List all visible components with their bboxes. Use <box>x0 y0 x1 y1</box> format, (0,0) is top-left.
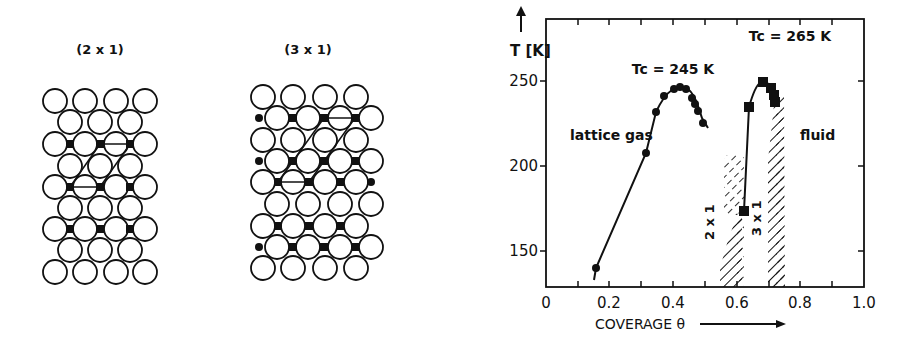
shaded-region-2x1 <box>720 155 744 287</box>
tc-245-label: Tc = 245 K <box>632 61 716 77</box>
x-axis-label-group: COVERAGE θ <box>595 316 786 332</box>
x-tick-label: 0.4 <box>661 294 685 312</box>
y-axis-label-group: T [K] <box>510 6 551 60</box>
phase-diagram: 0 0.2 0.4 0.6 0.8 1.0 150 200 250 T [K] … <box>509 6 876 332</box>
structure-2x1-panel: (2 x 1) <box>43 42 157 284</box>
structure-3x1-label: (3 x 1) <box>284 42 331 57</box>
tc-265-label: Tc = 265 K <box>749 28 833 44</box>
x-tick-label: 0.6 <box>725 294 749 312</box>
y-tick-label: 200 <box>509 157 538 175</box>
lattice-gas-label: lattice gas <box>570 127 653 143</box>
arrow-up-icon <box>516 6 526 16</box>
fluid-label: fluid <box>800 127 835 143</box>
x-tick-label: 0 <box>541 294 551 312</box>
shaded-region-3x1 <box>768 96 785 287</box>
x-ticks <box>578 19 832 287</box>
y-axis-label: T [K] <box>510 42 551 60</box>
plot-frame <box>546 19 864 287</box>
arrow-right-icon <box>776 320 786 328</box>
atom-lattice-3x1 <box>251 85 383 280</box>
series-2x1-curve <box>592 83 708 280</box>
x-tick-label: 0.8 <box>788 294 812 312</box>
x-tick-label: 0.2 <box>597 294 621 312</box>
y-tick-labels: 150 200 250 <box>509 72 538 260</box>
structure-2x1-label: (2 x 1) <box>76 42 123 57</box>
x-tick-label: 1.0 <box>852 294 876 312</box>
figure: (2 x 1) <box>0 0 916 343</box>
y-tick-label: 150 <box>509 242 538 260</box>
phase-2x1-label: 2 x 1 <box>702 204 717 240</box>
x-tick-labels: 0 0.2 0.4 0.6 0.8 1.0 <box>541 294 876 312</box>
phase-3x1-label: 3 x 1 <box>749 200 764 236</box>
y-tick-label: 250 <box>509 72 538 90</box>
x-axis-label: COVERAGE θ <box>595 316 685 332</box>
structure-3x1-panel: (3 x 1) <box>251 42 383 280</box>
